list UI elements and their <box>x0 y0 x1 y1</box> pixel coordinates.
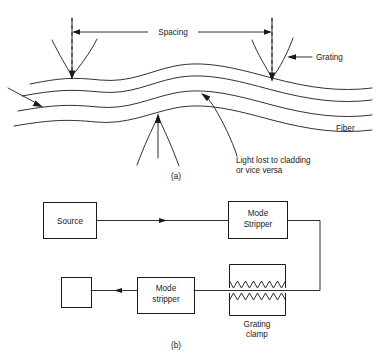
light-lost-label-line1: Light lost to cladding <box>236 156 311 165</box>
fiber-line-4 <box>14 106 372 132</box>
mode-stripper-top-label-line2: Stripper <box>244 220 273 229</box>
grating-clamp-label-line2: clamp <box>246 330 268 339</box>
fiber-line-2 <box>22 76 372 102</box>
figure-root: Spacing Grating <box>0 0 385 357</box>
fiber-grating-figure: Spacing Grating <box>0 0 385 357</box>
grating-clamp-upper-jaw[interactable] <box>230 265 286 289</box>
panel-b-group: Source Mode Stripper Grating clamp <box>44 202 321 351</box>
panel-a-label: (a) <box>171 172 181 181</box>
grating-label: Grating <box>316 53 343 62</box>
fiber-label: Fiber <box>336 124 355 133</box>
bottom-arrow-head <box>155 113 161 123</box>
detector-block[interactable] <box>62 278 92 308</box>
light-lost-label-line2: or vice versa <box>236 166 283 175</box>
grating-clamp-label-line1: Grating <box>244 320 271 329</box>
bottom-beam-right <box>158 117 179 166</box>
mode-stripper-bottom-label-line1: Mode <box>156 284 177 293</box>
spacing-label: Spacing <box>158 28 188 37</box>
wire-routing-right-loop <box>194 221 320 291</box>
light-lost-callout-curve <box>206 96 237 156</box>
spacing-arrowhead-right <box>264 29 272 34</box>
input-light-arrow-shaft <box>8 88 38 104</box>
spacing-arrowhead-left <box>72 29 80 34</box>
grating-clamp-lower-jaw[interactable] <box>230 293 286 316</box>
flow-arrow-top <box>159 218 167 223</box>
grating-beam-right-outer <box>252 40 272 78</box>
mode-stripper-bottom-label-line2: stripper <box>152 295 180 304</box>
source-block-label: Source <box>57 217 83 226</box>
grating-beam-right-inner <box>272 38 293 78</box>
panel-a-group: Spacing Grating <box>8 18 372 181</box>
grating-beam-left-inner <box>72 39 97 76</box>
flow-arrow-bottom <box>114 288 122 293</box>
bottom-beam-left <box>137 117 158 165</box>
fiber-line-1 <box>30 64 372 90</box>
panel-b-label: (b) <box>171 341 181 350</box>
mode-stripper-top-label-line1: Mode <box>248 209 269 218</box>
grating-callout-arrowhead <box>287 54 296 60</box>
fiber-line-3 <box>18 91 372 117</box>
